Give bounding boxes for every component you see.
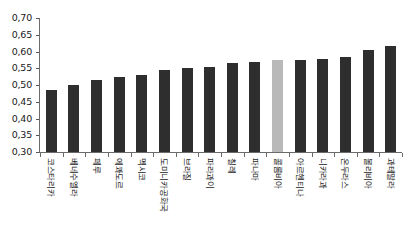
x-tick-mark	[221, 153, 222, 157]
x-axis-label: 브라질	[182, 158, 191, 230]
bar	[204, 67, 215, 152]
bar	[249, 62, 260, 152]
x-tick-mark	[131, 153, 132, 157]
bar-chart: 0,700,650,600,550,500,450,400,350,30 코스타…	[0, 0, 410, 235]
bar	[159, 70, 170, 152]
bar	[68, 85, 79, 152]
bar	[46, 90, 57, 152]
x-axis-label: 파라과이	[205, 158, 214, 230]
x-axis-labels: 코스타리카베네수엘라페루에콰도르멕시코도미니카공화국브라질파라과이칠레파나마콜롬…	[40, 158, 402, 235]
x-axis-label: 페루	[92, 158, 101, 230]
x-axis-label: 온두라스	[340, 158, 349, 230]
y-tick-label: 0,70	[0, 13, 32, 23]
y-tick-label: 0,35	[0, 130, 32, 140]
x-tick-mark	[40, 153, 41, 157]
y-tick-label: 0,40	[0, 114, 32, 124]
bar	[295, 60, 306, 152]
x-tick-mark	[334, 153, 335, 157]
y-tick-label: 0,45	[0, 97, 32, 107]
x-axis-label: 멕시코	[137, 158, 146, 230]
x-tick-mark	[85, 153, 86, 157]
x-axis-label: 도미니카공화국	[159, 158, 168, 230]
x-tick-mark	[63, 153, 64, 157]
bar	[114, 77, 125, 152]
y-tick-label: 0,30	[0, 147, 32, 157]
x-tick-mark	[153, 153, 154, 157]
bar	[385, 46, 396, 152]
x-tick-mark	[244, 153, 245, 157]
x-axis-label: 칠레	[227, 158, 236, 230]
x-axis-label: 베네수엘라	[69, 158, 78, 230]
x-tick-mark	[198, 153, 199, 157]
bar	[136, 75, 147, 152]
bar	[363, 50, 374, 152]
x-axis-label: 니카라과	[318, 158, 327, 230]
x-tick-mark	[402, 153, 403, 157]
x-tick-mark	[312, 153, 313, 157]
y-tick-label: 0,50	[0, 80, 32, 90]
x-axis-label: 볼리비아	[363, 158, 372, 230]
x-tick-mark	[266, 153, 267, 157]
x-tick-mark	[357, 153, 358, 157]
bar	[317, 59, 328, 152]
x-axis-label: 과테말라	[386, 158, 395, 230]
bar-highlighted	[272, 60, 283, 152]
x-axis-label: 코스타리카	[46, 158, 55, 230]
bar	[340, 57, 351, 152]
y-tick-label: 0,60	[0, 47, 32, 57]
y-tick-label: 0,65	[0, 30, 32, 40]
y-tick-label: 0,55	[0, 63, 32, 73]
x-tick-mark	[108, 153, 109, 157]
plot-area	[40, 18, 402, 152]
y-axis: 0,700,650,600,550,500,450,400,350,30	[0, 10, 36, 160]
x-tick-mark	[176, 153, 177, 157]
bar	[182, 68, 193, 152]
x-tick-mark	[379, 153, 380, 157]
x-axis-label: 파나마	[250, 158, 259, 230]
bar	[227, 63, 238, 152]
x-axis-label: 콜롬비아	[273, 158, 282, 230]
x-axis-label: 아르헨티나	[295, 158, 304, 230]
bar	[91, 80, 102, 152]
x-axis-label: 에콰도르	[114, 158, 123, 230]
x-tick-mark	[289, 153, 290, 157]
